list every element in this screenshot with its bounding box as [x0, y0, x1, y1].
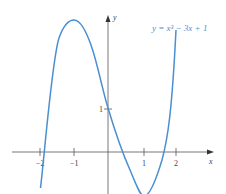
equation-annotation: y = x³ − 3x + 1	[151, 23, 207, 33]
x-tick-label-neg1: −1	[70, 159, 79, 168]
x-axis-label: x	[208, 157, 213, 166]
x-tick-label-1: 1	[142, 159, 146, 168]
x-axis-arrow-icon	[207, 150, 214, 155]
y-axis-label: y	[112, 13, 117, 22]
x-tick-label-2: 2	[174, 159, 178, 168]
y-axis-arrow-icon	[106, 15, 111, 22]
cubic-function-plot: −2 −1 1 2 1 x y y = x³ − 3x + 1	[0, 0, 226, 194]
y-tick-label-1: 1	[99, 105, 103, 114]
